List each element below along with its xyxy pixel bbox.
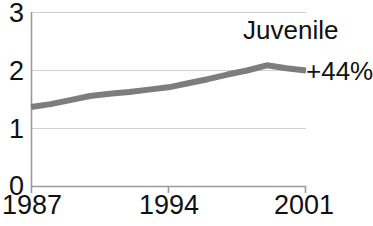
series-name-label: Juvenile xyxy=(243,17,338,43)
x-axis-tick-label-1994: 1994 xyxy=(139,192,199,219)
data-line-juvenile xyxy=(31,65,306,107)
y-axis-tick-label-1: 1 xyxy=(0,116,24,143)
y-axis-tick-label-2: 2 xyxy=(0,58,24,85)
x-axis-tick-label-2001: 2001 xyxy=(274,192,334,219)
y-axis-tick-label-3: 3 xyxy=(0,0,24,27)
x-axis-tick-label-1987: 1987 xyxy=(2,192,62,219)
percent-change-label: +44% xyxy=(306,58,373,84)
